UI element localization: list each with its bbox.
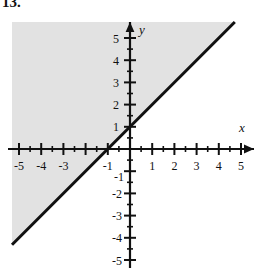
y-tick-label: 4: [113, 54, 119, 68]
x-axis-arrow-icon: [244, 145, 254, 154]
y-tick-label: -2: [112, 187, 122, 201]
graph-svg: x y -5 -4 -3 -1 1 2 3 4 5 5 4 3 2 1 -1 -…: [0, 10, 271, 275]
y-tick-label: 5: [113, 32, 119, 46]
y-tick-label: -1: [114, 170, 124, 184]
y-tick-label: -4: [112, 231, 122, 245]
y-tick-label: 3: [113, 76, 119, 90]
y-tick-label: 1: [113, 120, 119, 134]
y-tick-label: -3: [112, 209, 122, 223]
y-tick-label: -5: [112, 254, 122, 268]
y-tick-label: 2: [113, 98, 119, 112]
x-tick-label: 5: [238, 159, 244, 173]
figure-page: 13.: [0, 0, 271, 275]
coordinate-plane-figure: x y -5 -4 -3 -1 1 2 3 4 5 5 4 3 2 1 -1 -…: [0, 10, 271, 275]
x-tick-label: -1: [103, 159, 113, 173]
x-tick-label: 3: [194, 159, 200, 173]
x-tick-label: -5: [14, 159, 24, 173]
x-tick-label: 4: [216, 159, 222, 173]
problem-number: 13.: [2, 0, 21, 9]
x-tick-label: -3: [58, 159, 68, 173]
y-axis-label: y: [137, 22, 145, 37]
x-tick-label: -4: [36, 159, 46, 173]
x-tick-label: 2: [171, 159, 177, 173]
x-tick-label: 1: [149, 159, 155, 173]
x-axis-label: x: [238, 120, 245, 135]
